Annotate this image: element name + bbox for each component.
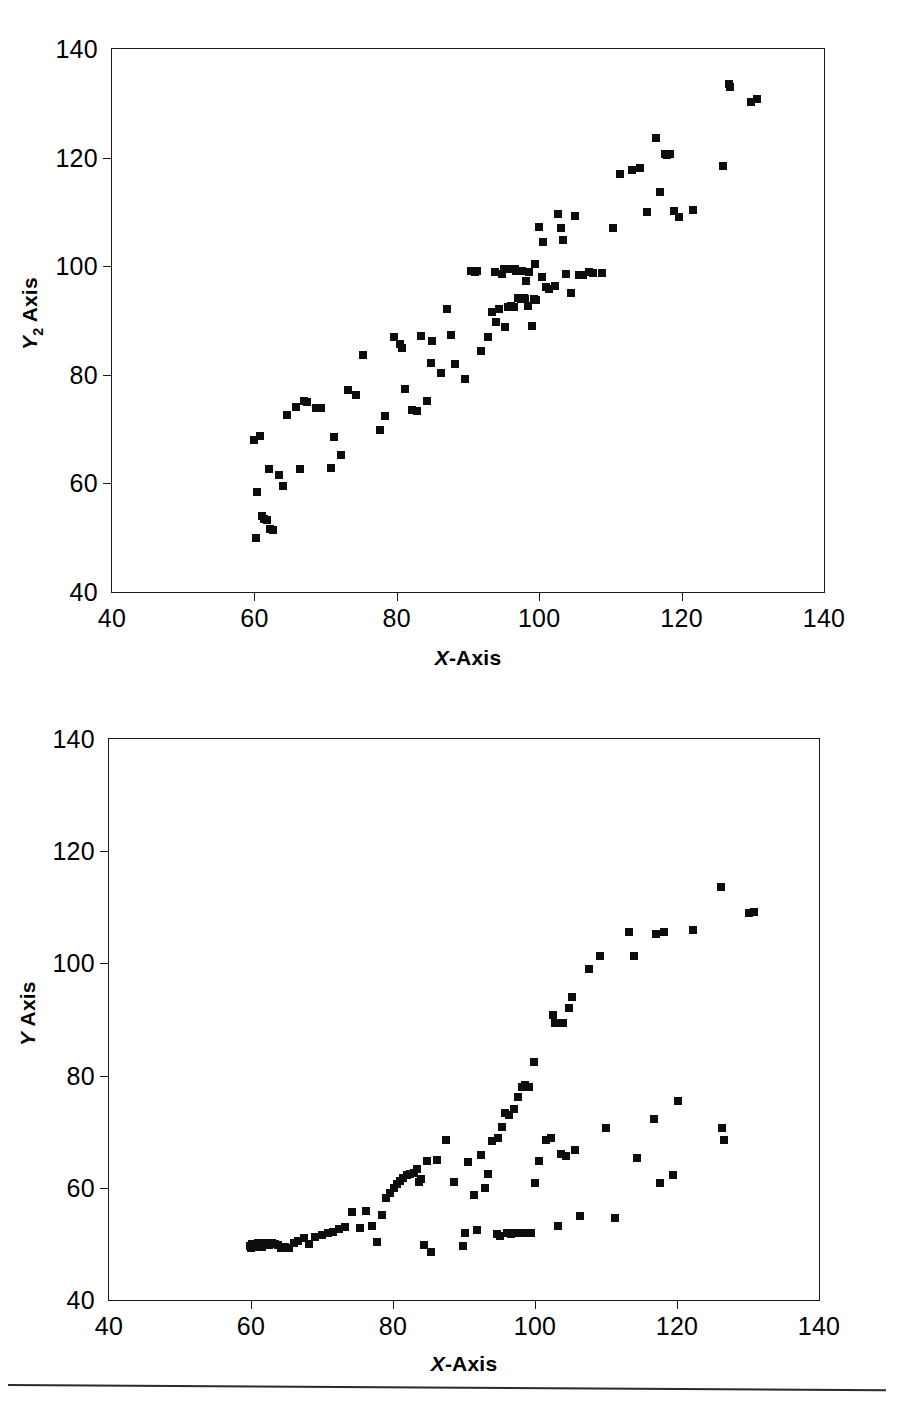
plot-frame-top: 406080100120140406080100120140 (111, 48, 825, 593)
x-axis-title-bottom: X-Axis (108, 1352, 820, 1376)
data-point (461, 375, 469, 383)
data-point (524, 302, 532, 310)
data-point (498, 1123, 506, 1131)
y-tick-label: 80 (67, 1061, 95, 1090)
y-tick-mark (100, 1188, 109, 1189)
y-tick-label: 120 (55, 143, 98, 172)
x-axis-title-suffix: -Axis (445, 1352, 497, 1375)
data-point (413, 407, 421, 415)
x-tick-label: 40 (98, 604, 126, 633)
data-point (520, 294, 528, 302)
data-point (500, 265, 508, 273)
data-point (256, 432, 264, 440)
data-point (269, 526, 277, 534)
data-point (557, 224, 565, 232)
data-point (522, 277, 530, 285)
data-point (538, 273, 546, 281)
data-point (571, 212, 579, 220)
data-point (461, 1229, 469, 1237)
data-point (585, 965, 593, 973)
data-point (373, 1238, 381, 1246)
data-point (443, 305, 451, 313)
y-axis-title-variable: Y (16, 1032, 39, 1046)
data-point (559, 1019, 567, 1027)
x-axis-title-suffix: -Axis (449, 646, 501, 669)
data-point (596, 952, 604, 960)
y-tick-label: 60 (67, 1173, 95, 1202)
data-point (481, 1184, 489, 1192)
data-point (669, 1171, 677, 1179)
y-tick-mark (103, 158, 112, 159)
y-tick-label: 40 (67, 1286, 95, 1315)
data-point (263, 516, 271, 524)
data-point (719, 162, 727, 170)
scatter-chart-bottom: 406080100120140406080100120140 X-Axis Y … (0, 700, 897, 1360)
data-point (292, 403, 300, 411)
x-axis-title-top: X-Axis (111, 646, 825, 670)
data-point (602, 1124, 610, 1132)
data-point (726, 83, 734, 91)
data-point (459, 1242, 467, 1250)
data-point (450, 1178, 458, 1186)
data-point (753, 95, 761, 103)
data-point (417, 1175, 425, 1183)
x-tick-label: 100 (514, 1312, 557, 1341)
y-axis-title-variable: Y (18, 336, 41, 350)
data-point (616, 170, 624, 178)
data-point (442, 1136, 450, 1144)
y-tick-label: 140 (52, 725, 95, 754)
data-point (362, 1207, 370, 1215)
data-point (348, 1208, 356, 1216)
data-point (265, 465, 273, 473)
x-tick-label: 80 (383, 604, 411, 633)
x-tick-mark (251, 1300, 252, 1309)
data-point (633, 1154, 641, 1162)
data-point (630, 952, 638, 960)
data-point (562, 1152, 570, 1160)
data-point (447, 331, 455, 339)
x-tick-mark (539, 592, 540, 601)
data-point (501, 323, 509, 331)
x-tick-mark (682, 592, 683, 601)
y-axis-title-subscript: 2 (30, 328, 46, 336)
data-point (376, 426, 384, 434)
data-point (253, 488, 261, 496)
data-point (547, 1134, 555, 1142)
y-tick-mark (100, 851, 109, 852)
y-axis-title-suffix: Axis (16, 981, 39, 1031)
data-point (576, 1212, 584, 1220)
plot-area-bottom: 406080100120140406080100120140 (109, 739, 819, 1300)
data-point (337, 451, 345, 459)
y-tick-label: 40 (70, 578, 98, 607)
data-point (643, 208, 651, 216)
data-point (531, 260, 539, 268)
x-tick-label: 80 (379, 1312, 407, 1341)
x-tick-label: 40 (95, 1312, 123, 1341)
data-point (636, 164, 644, 172)
x-tick-mark (393, 1300, 394, 1309)
data-point (525, 268, 533, 276)
data-point (528, 322, 536, 330)
data-point (352, 391, 360, 399)
data-point (423, 1157, 431, 1165)
data-point (437, 369, 445, 377)
data-point (252, 534, 260, 542)
data-point (689, 206, 697, 214)
y-tick-label: 140 (55, 35, 98, 64)
y-axis-title-bottom: Y Axis (16, 944, 43, 1084)
x-tick-label: 140 (798, 1312, 841, 1341)
data-point (554, 210, 562, 218)
y-tick-mark (100, 1076, 109, 1077)
data-point (451, 360, 459, 368)
y-tick-mark (100, 963, 109, 964)
data-point (530, 1058, 538, 1066)
y-tick-label: 100 (55, 252, 98, 281)
data-point (477, 347, 485, 355)
data-point (477, 1151, 485, 1159)
data-point (720, 1136, 728, 1144)
data-point (381, 412, 389, 420)
data-point (551, 282, 559, 290)
x-tick-label: 120 (660, 604, 703, 633)
data-point (492, 318, 500, 326)
data-point (531, 1179, 539, 1187)
